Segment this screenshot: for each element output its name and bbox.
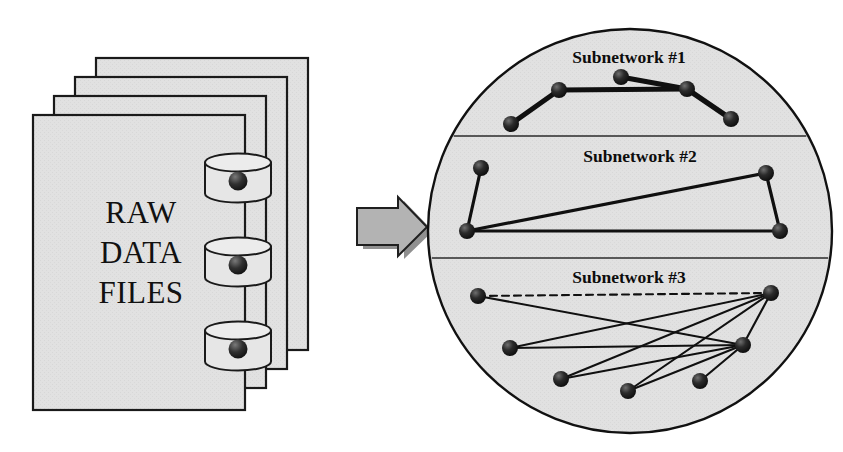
network-node[interactable] <box>692 373 708 389</box>
network-node[interactable] <box>470 288 486 304</box>
database-cylinder-bottom-top <box>205 322 271 340</box>
network-edge-sub1 <box>559 89 687 90</box>
raw-data-files-label: RAW DATA FILES <box>98 195 183 310</box>
network-node[interactable] <box>551 82 567 98</box>
diagram-canvas: RAW DATA FILES Subnetwork #1Subnetwork #… <box>0 0 843 452</box>
network-node[interactable] <box>723 111 739 127</box>
network-node[interactable] <box>620 383 636 399</box>
raw-label-line-2: DATA <box>100 235 182 270</box>
database-cylinder-top-datum-dot <box>229 172 248 191</box>
network-node[interactable] <box>613 69 629 85</box>
network-node[interactable] <box>553 371 569 387</box>
subnetwork-label-1: Subnetwork #1 <box>572 47 685 67</box>
network-node[interactable] <box>473 160 489 176</box>
network-node[interactable] <box>459 223 475 239</box>
database-cylinder-bottom-datum-dot <box>229 340 248 359</box>
network-node[interactable] <box>502 340 518 356</box>
network-node[interactable] <box>679 81 695 97</box>
database-cylinder-middle-datum-dot <box>229 256 248 275</box>
network-node[interactable] <box>772 223 788 239</box>
network-node[interactable] <box>763 285 779 301</box>
subnetwork-label-2: Subnetwork #2 <box>583 146 696 166</box>
subnetwork-label-3: Subnetwork #3 <box>572 267 686 287</box>
database-cylinders <box>205 154 271 371</box>
network-node[interactable] <box>735 337 751 353</box>
database-cylinder-middle-top <box>205 238 271 256</box>
network-node[interactable] <box>758 165 774 181</box>
transform-arrow <box>357 197 433 259</box>
database-cylinder-top-top <box>205 154 271 172</box>
raw-label-line-1: RAW <box>105 195 177 230</box>
raw-label-line-3: FILES <box>98 275 183 310</box>
network-node[interactable] <box>503 116 519 132</box>
